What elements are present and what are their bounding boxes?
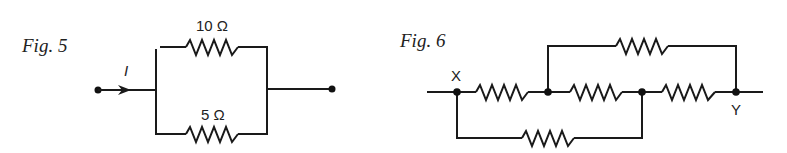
current-label: I — [124, 62, 128, 79]
resistor-10-ohm — [186, 40, 238, 55]
node-y — [732, 88, 740, 96]
circuit-diagrams: Fig. 5 I 10 Ω 5 Ω Fig. 6 — [0, 0, 787, 153]
top-bypass-wire-left — [548, 46, 616, 92]
output-terminal — [329, 86, 336, 93]
node-2 — [638, 88, 646, 96]
resistor-main-1 — [476, 85, 528, 100]
bottom-bypass-wire-left — [457, 92, 522, 138]
resistor-5-ohm — [186, 127, 238, 142]
figure-5-label: Fig. 5 — [21, 35, 67, 56]
node-y-label: Y — [731, 101, 741, 118]
node-x-label: X — [451, 67, 461, 84]
bottom-bypass-wire-right — [574, 92, 642, 138]
figure-5: Fig. 5 I 10 Ω 5 Ω — [21, 17, 336, 142]
resistor-top-bypass — [616, 39, 668, 54]
node-x — [453, 88, 461, 96]
figure-6: Fig. 6 X Y — [399, 30, 763, 146]
resistor-10-ohm-label: 10 Ω — [196, 17, 228, 34]
resistor-5-ohm-label: 5 Ω — [201, 106, 225, 123]
resistor-main-3 — [662, 85, 715, 100]
resistor-main-2 — [570, 85, 622, 100]
node-1 — [544, 88, 552, 96]
figure-6-label: Fig. 6 — [399, 30, 446, 51]
resistor-bottom-bypass — [522, 131, 574, 146]
